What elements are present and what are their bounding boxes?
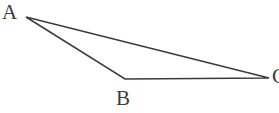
vertex-label-a: A [2, 2, 17, 23]
triangle-shape [0, 0, 279, 113]
geometry-figure: A B C [0, 0, 279, 113]
vertex-label-b: B [116, 88, 130, 109]
vertex-label-c: C [272, 66, 279, 87]
triangle-outline [26, 17, 269, 79]
